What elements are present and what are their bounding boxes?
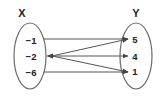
domain-value: −1 <box>26 35 38 46</box>
range-value: 4 <box>132 51 138 62</box>
range-label: Y <box>132 7 140 19</box>
domain-label: X <box>18 7 26 19</box>
domain-value: −6 <box>26 67 37 78</box>
range-value: 5 <box>132 34 138 45</box>
domain-value: −2 <box>26 51 37 62</box>
arrow-origin-marker <box>46 54 53 59</box>
arrow-neg2-to-5 <box>52 39 128 56</box>
range-value: 1 <box>132 66 138 77</box>
mapping-diagram: X Y −1 −2 −6 5 4 1 <box>0 0 163 100</box>
arrow-neg2-to-1 <box>52 56 128 72</box>
